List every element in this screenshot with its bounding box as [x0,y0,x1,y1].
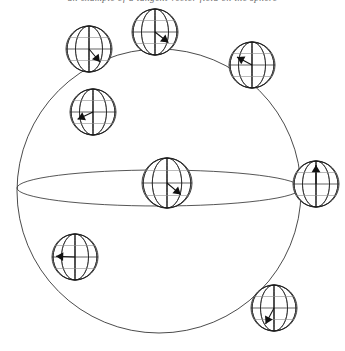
globe-marker-layer [52,9,339,331]
globe-marker-right-equator[interactable] [293,161,339,207]
sphere-figure-canvas [0,0,345,351]
globe-marker-lower-left-inner[interactable] [52,234,98,280]
globe-marker-top-left[interactable] [66,26,112,72]
globe-marker-top-right[interactable] [229,42,275,88]
globe-marker-bottom-right[interactable] [251,285,297,331]
figure-root: an example of a tangent vector field on … [0,0,345,351]
globe-marker-top-center[interactable] [132,9,178,55]
globe-marker-upper-left-inner[interactable] [70,89,116,135]
globe-marker-center-equator[interactable] [142,158,192,208]
